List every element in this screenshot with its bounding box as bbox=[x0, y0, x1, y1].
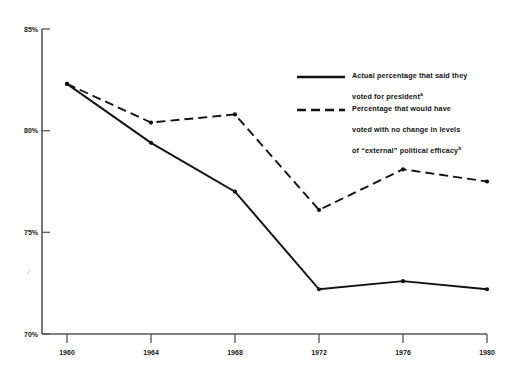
legend-counterfactual-superscript: b bbox=[458, 144, 461, 150]
x-tick-label-1960: 1960 bbox=[59, 349, 75, 356]
data-point bbox=[149, 120, 153, 124]
data-point bbox=[149, 141, 153, 145]
data-point bbox=[401, 167, 405, 171]
legend-actual-line1: Actual percentage that said they bbox=[352, 71, 467, 80]
x-tick-label-1980: 1980 bbox=[479, 349, 495, 356]
data-point bbox=[233, 190, 237, 194]
x-tick-label-1968: 1968 bbox=[227, 349, 243, 356]
line-chart: 85% 80% 75% 70% 1960 1964 1968 1972 1976… bbox=[0, 0, 512, 373]
scan-artifact-mark: ⁄ bbox=[28, 268, 34, 275]
legend-counterfactual-line2: voted with no change in levels bbox=[352, 125, 460, 134]
y-tick-label-80: 80% bbox=[24, 127, 39, 134]
y-tick-label-75: 75% bbox=[24, 229, 39, 236]
data-point bbox=[485, 287, 489, 291]
legend-counterfactual-line3: of “external” political efficacy bbox=[352, 146, 458, 155]
x-tick-label-1972: 1972 bbox=[311, 349, 327, 356]
legend-counterfactual-line1: Percentage that would have bbox=[352, 104, 451, 113]
legend-entry-counterfactual: Percentage that would have voted with no… bbox=[352, 93, 508, 156]
x-tick-label-1964: 1964 bbox=[143, 349, 159, 356]
y-tick-label-85: 85% bbox=[24, 26, 39, 33]
data-point bbox=[401, 279, 405, 283]
data-point bbox=[65, 82, 69, 86]
data-point bbox=[485, 179, 489, 183]
data-point bbox=[233, 112, 237, 116]
y-tick-label-70: 70% bbox=[24, 331, 39, 338]
data-point bbox=[317, 208, 321, 212]
chart-container: 85% 80% 75% 70% 1960 1964 1968 1972 1976… bbox=[0, 0, 512, 373]
data-point bbox=[317, 287, 321, 291]
x-tick-label-1976: 1976 bbox=[395, 349, 411, 356]
